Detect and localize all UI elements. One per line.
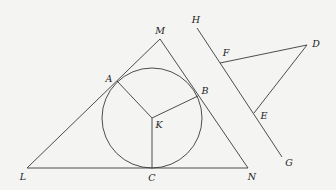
segment-MN	[160, 39, 248, 168]
label-E: E	[260, 110, 268, 121]
geometry-diagram: MLNABCKHGFED	[0, 0, 336, 190]
label-M: M	[154, 25, 165, 36]
segment-FD	[220, 45, 307, 63]
label-D: D	[311, 38, 320, 49]
label-H: H	[191, 14, 201, 25]
label-F: F	[222, 47, 230, 58]
point-labels: MLNABCKHGFED	[19, 14, 320, 183]
line-segments	[27, 28, 307, 168]
segment-KB	[152, 96, 198, 118]
segment-HG	[197, 28, 282, 157]
label-N: N	[247, 171, 257, 182]
label-A: A	[105, 73, 113, 84]
label-C: C	[148, 172, 156, 183]
label-G: G	[285, 157, 293, 168]
label-L: L	[19, 171, 26, 182]
segment-KA	[117, 81, 152, 118]
label-K: K	[154, 119, 163, 130]
label-B: B	[201, 85, 209, 96]
segment-DE	[254, 45, 307, 113]
segment-LM	[27, 39, 160, 168]
